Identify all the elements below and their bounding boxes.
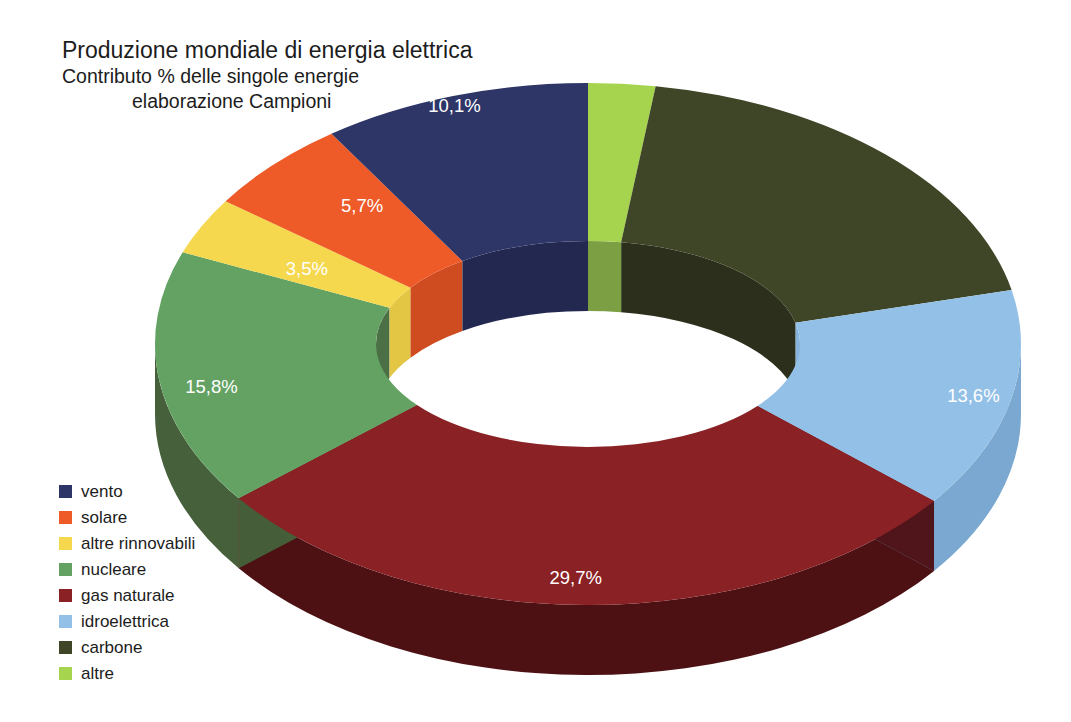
- legend-item-carbone[interactable]: carbone: [59, 634, 195, 660]
- chart-subtitle-1: Contributo % delle singole energie: [0, 64, 600, 89]
- legend-item-label: gas naturale: [81, 587, 175, 604]
- legend-item-altre-rinnovabili[interactable]: altre rinnovabili: [59, 530, 195, 556]
- donut-top-faces: [155, 83, 1021, 605]
- legend-item-idroelettrica[interactable]: idroelettrica: [59, 608, 195, 634]
- legend-swatch-icon: [59, 667, 72, 680]
- legend-item-label: altre: [81, 665, 114, 682]
- legend-swatch-icon: [59, 485, 72, 498]
- legend-swatch-icon: [59, 641, 72, 654]
- chart-subtitle-2: elaborazione Campioni: [0, 89, 600, 114]
- legend-item-solare[interactable]: solare: [59, 504, 195, 530]
- legend-swatch-icon: [59, 511, 72, 524]
- legend-item-label: vento: [81, 483, 123, 500]
- slice-value-label: 29,7%: [550, 567, 602, 588]
- legend-swatch-icon: [59, 589, 72, 602]
- legend-item-label: carbone: [81, 639, 142, 656]
- slice-value-label: 19,2%: [880, 127, 932, 148]
- slice-value-label: 3,5%: [286, 258, 328, 279]
- legend-swatch-icon: [59, 615, 72, 628]
- legend-swatch-icon: [59, 537, 72, 550]
- legend-item-altre[interactable]: altre: [59, 660, 195, 686]
- legend-item-gas-naturale[interactable]: gas naturale: [59, 582, 195, 608]
- slice-value-label: 5,7%: [341, 195, 383, 216]
- legend-item-nucleare[interactable]: nucleare: [59, 556, 195, 582]
- slice-value-label: 15,8%: [185, 376, 237, 397]
- legend-item-vento[interactable]: vento: [59, 478, 195, 504]
- legend-item-label: idroelettrica: [81, 613, 169, 630]
- chart-legend: ventosolarealtre rinnovabilinuclearegas …: [59, 478, 195, 686]
- chart-title: Produzione mondiale di energia elettrica: [0, 36, 600, 64]
- title-block: Produzione mondiale di energia elettrica…: [0, 36, 600, 114]
- legend-swatch-icon: [59, 563, 72, 576]
- donut-inner-wall-segment: [588, 241, 621, 312]
- legend-item-label: altre rinnovabili: [81, 535, 195, 552]
- slice-value-label: 13,6%: [947, 385, 999, 406]
- legend-item-label: solare: [81, 509, 127, 526]
- legend-item-label: nucleare: [81, 561, 146, 578]
- slice-value-label: 2,5%: [597, 45, 639, 66]
